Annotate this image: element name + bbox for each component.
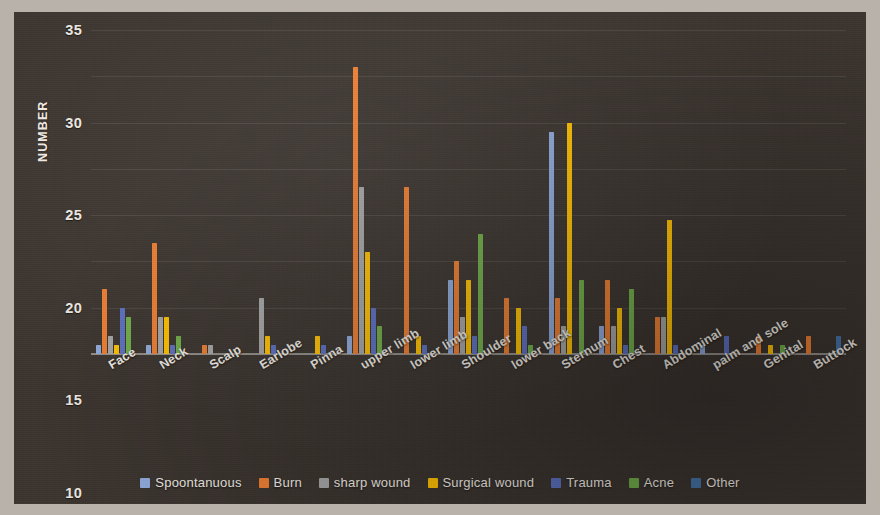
- bar: [549, 132, 554, 354]
- legend-swatch-icon: [629, 478, 639, 488]
- bar-group: [292, 30, 342, 354]
- legend-label: Spoontanuous: [155, 475, 241, 490]
- bar-group: [645, 30, 695, 354]
- photo-frame: NUMBER 05101520253035 FaceNeckScalpEarlo…: [0, 0, 880, 515]
- bar: [164, 317, 169, 354]
- legend-swatch-icon: [691, 478, 701, 488]
- legend-label: Other: [706, 475, 740, 490]
- bar-group: [242, 30, 292, 354]
- y-axis-tick-label: 30: [65, 114, 82, 130]
- y-axis-tick-label: 35: [65, 22, 82, 38]
- legend-item[interactable]: sharp wound: [319, 475, 411, 490]
- bar: [265, 336, 270, 355]
- chart-legend: SpoontanuousBurnsharp woundSurgical woun…: [14, 475, 866, 490]
- y-axis-tick-label: 20: [65, 299, 82, 315]
- bar: [158, 317, 163, 354]
- legend-swatch-icon: [259, 478, 269, 488]
- legend-label: Trauma: [566, 475, 612, 490]
- bar: [579, 280, 584, 354]
- bar-group: [796, 30, 846, 354]
- bar-group: [594, 30, 644, 354]
- bar-groups: [91, 30, 846, 354]
- bar: [516, 308, 521, 354]
- legend-label: Acne: [644, 475, 674, 490]
- bar-group: [393, 30, 443, 354]
- bar: [567, 123, 572, 354]
- legend-label: Surgical wound: [443, 475, 535, 490]
- legend-swatch-icon: [140, 478, 150, 488]
- bar: [661, 317, 666, 354]
- bar: [806, 336, 811, 355]
- bar: [120, 308, 125, 354]
- bar: [466, 280, 471, 354]
- bar-group: [343, 30, 393, 354]
- bar-group: [141, 30, 191, 354]
- bar: [359, 187, 364, 354]
- bar: [259, 298, 264, 354]
- bar: [315, 336, 320, 355]
- bar: [152, 243, 157, 354]
- bar: [617, 308, 622, 354]
- bar-group: [745, 30, 795, 354]
- x-axis-tick-labels: FaceNeckScalpEarlobePinnaupper limblower…: [91, 356, 846, 464]
- bar-group: [443, 30, 493, 354]
- bar: [96, 345, 101, 354]
- bar: [611, 326, 616, 354]
- bar: [108, 336, 113, 355]
- bar: [371, 308, 376, 354]
- legend-label: sharp wound: [334, 475, 411, 490]
- legend-label: Burn: [274, 475, 302, 490]
- bar: [655, 317, 660, 354]
- y-axis-tick-label: 25: [65, 207, 82, 223]
- legend-swatch-icon: [551, 478, 561, 488]
- bar: [629, 289, 634, 354]
- legend-swatch-icon: [319, 478, 329, 488]
- bar: [102, 289, 107, 354]
- y-axis-title: NUMBER: [36, 101, 50, 162]
- bar: [208, 345, 213, 354]
- bar-group: [695, 30, 745, 354]
- legend-item[interactable]: Burn: [259, 475, 302, 490]
- y-axis-tick-label: 15: [65, 392, 82, 408]
- bar: [353, 67, 358, 354]
- legend-item[interactable]: Other: [691, 475, 740, 490]
- bar: [478, 234, 483, 354]
- legend-item[interactable]: Spoontanuous: [140, 475, 241, 490]
- plot-area: 05101520253035: [91, 30, 846, 354]
- legend-item[interactable]: Trauma: [551, 475, 612, 490]
- legend-item[interactable]: Acne: [629, 475, 674, 490]
- bar-group: [192, 30, 242, 354]
- bar: [202, 345, 207, 354]
- bar-group: [91, 30, 141, 354]
- legend-item[interactable]: Surgical wound: [428, 475, 535, 490]
- bar: [347, 336, 352, 355]
- bar: [146, 345, 151, 354]
- chart-figure: NUMBER 05101520253035 FaceNeckScalpEarlo…: [14, 12, 866, 504]
- bar: [667, 220, 672, 354]
- legend-swatch-icon: [428, 478, 438, 488]
- bar-group: [544, 30, 594, 354]
- bar: [365, 252, 370, 354]
- bar-group: [494, 30, 544, 354]
